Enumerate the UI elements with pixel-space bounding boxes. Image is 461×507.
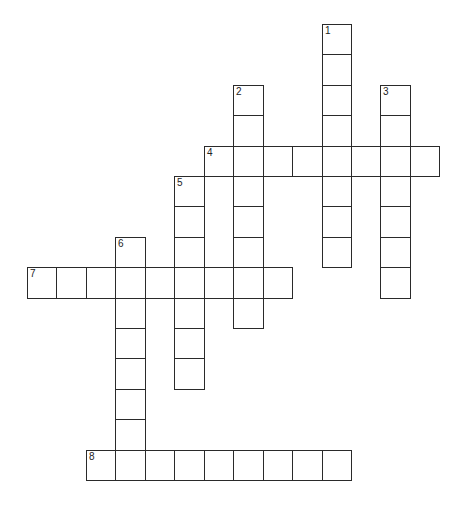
crossword-cell[interactable] — [322, 115, 352, 147]
crossword-cell[interactable]: 3 — [380, 85, 411, 116]
crossword-cell[interactable] — [263, 450, 293, 481]
crossword-cell[interactable] — [145, 450, 175, 481]
crossword-cell[interactable] — [115, 328, 146, 359]
crossword-cell[interactable] — [233, 450, 264, 481]
crossword-cell[interactable] — [233, 267, 264, 299]
crossword-cell[interactable] — [174, 206, 205, 238]
crossword-cell[interactable] — [56, 267, 87, 299]
crossword-cell[interactable]: 7 — [27, 267, 57, 299]
crossword-cell[interactable] — [115, 358, 146, 390]
crossword-cell[interactable] — [233, 298, 264, 329]
crossword-cell[interactable] — [380, 146, 411, 177]
crossword-cell[interactable] — [174, 237, 205, 268]
crossword-cell[interactable]: 4 — [204, 146, 234, 177]
crossword-cell[interactable] — [115, 389, 146, 420]
crossword-cell[interactable] — [322, 146, 352, 177]
crossword-cell[interactable] — [174, 298, 205, 329]
crossword-cell[interactable] — [233, 206, 264, 238]
crossword-cell[interactable] — [233, 146, 264, 177]
crossword-cell[interactable] — [380, 115, 411, 147]
crossword-cell[interactable] — [86, 267, 116, 299]
crossword-cell[interactable] — [380, 176, 411, 207]
crossword-cell[interactable] — [204, 267, 234, 299]
crossword-cell[interactable] — [322, 54, 352, 86]
crossword-cell[interactable] — [322, 206, 352, 238]
crossword-cell[interactable] — [174, 450, 205, 481]
crossword-cell[interactable] — [380, 206, 411, 238]
crossword-cell[interactable] — [115, 298, 146, 329]
crossword-cell[interactable] — [380, 237, 411, 268]
crossword-cell[interactable]: 1 — [322, 24, 352, 55]
crossword-cell[interactable] — [233, 115, 264, 147]
crossword-cell[interactable] — [115, 450, 146, 481]
crossword-cell[interactable] — [115, 419, 146, 451]
clue-number: 8 — [89, 452, 95, 462]
clue-number: 6 — [118, 239, 124, 249]
crossword-cell[interactable] — [322, 237, 352, 268]
crossword-cell[interactable]: 2 — [233, 85, 264, 116]
crossword-cell[interactable]: 8 — [86, 450, 116, 481]
crossword-cell[interactable] — [115, 267, 146, 299]
clue-number: 7 — [30, 269, 36, 279]
crossword-cell[interactable] — [322, 85, 352, 116]
crossword-cell[interactable] — [410, 146, 440, 177]
crossword-cell[interactable] — [380, 267, 411, 299]
crossword-cell[interactable] — [233, 237, 264, 268]
crossword-cell[interactable]: 5 — [174, 176, 205, 207]
crossword-cell[interactable] — [204, 450, 234, 481]
crossword-cell[interactable] — [174, 358, 205, 390]
clue-number: 1 — [325, 26, 331, 36]
crossword-cell[interactable] — [292, 146, 323, 177]
crossword-cell[interactable] — [174, 328, 205, 359]
clue-number: 3 — [383, 87, 389, 97]
crossword-cell[interactable] — [322, 176, 352, 207]
crossword-grid: 12345678 — [0, 0, 461, 507]
crossword-cell[interactable] — [322, 450, 352, 481]
crossword-cell[interactable] — [263, 267, 293, 299]
clue-number: 2 — [236, 87, 242, 97]
crossword-cell[interactable] — [233, 176, 264, 207]
crossword-cell[interactable] — [174, 267, 205, 299]
crossword-cell[interactable]: 6 — [115, 237, 146, 268]
crossword-cell[interactable] — [351, 146, 381, 177]
clue-number: 4 — [207, 148, 213, 158]
clue-number: 5 — [177, 178, 183, 188]
crossword-cell[interactable] — [292, 450, 323, 481]
crossword-cell[interactable] — [145, 267, 175, 299]
crossword-cell[interactable] — [263, 146, 293, 177]
